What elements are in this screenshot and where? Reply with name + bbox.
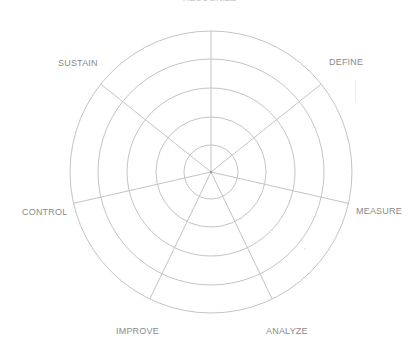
spoke-7 — [101, 84, 211, 172]
spoke-6 — [74, 172, 211, 203]
center-hub — [210, 171, 212, 173]
radial-spokes — [74, 31, 349, 299]
clipped-title: RECOGNIZE — [0, 0, 419, 3]
label-control: CONTROL — [22, 208, 67, 217]
label-improve: IMPROVE — [116, 327, 159, 336]
spoke-3 — [211, 172, 348, 203]
wheel-graphic — [0, 0, 419, 354]
scan-artifact — [355, 80, 356, 102]
spoke-2 — [211, 84, 321, 172]
radar-wheel-diagram: RECOGNIZE DEFINE MEASURE ANALYZE IMPROVE… — [0, 0, 419, 354]
label-analyze: ANALYZE — [266, 327, 308, 336]
label-define: DEFINE — [329, 58, 363, 67]
label-sustain: SUSTAIN — [58, 59, 98, 68]
scan-artifact — [304, 248, 306, 250]
label-measure: MEASURE — [356, 207, 402, 216]
